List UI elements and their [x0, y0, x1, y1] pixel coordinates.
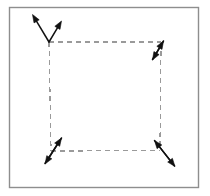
diagram-svg: [0, 0, 210, 196]
figure-canvas: [0, 0, 210, 196]
